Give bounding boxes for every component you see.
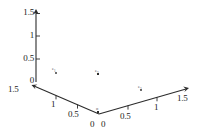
right-tick-label-1p0: 1 — [154, 103, 158, 112]
left-tick-label-0: 0 — [90, 120, 94, 129]
data-point-label-3: e3 — [138, 84, 142, 92]
left-tick-label-1p5: 1.5 — [8, 85, 19, 94]
left-tick-label-0p5: 0.5 — [68, 110, 79, 119]
origin-marker — [97, 111, 99, 113]
data-point-label-2-sub: 2 — [97, 71, 99, 75]
axes-lines-layer — [0, 0, 201, 138]
origin-label: o — [96, 106, 98, 111]
data-point-label-1: e1 — [52, 66, 56, 74]
data-point-label-3-sub: 3 — [140, 87, 142, 91]
vertical-tick-label-1p5: 1.5 — [10, 8, 34, 17]
right-tick-label-1p5: 1.5 — [177, 94, 188, 103]
right-tick-label-0: 0 — [101, 120, 105, 129]
left-depth-axis-line — [34, 86, 99, 114]
left-tick-label-1p0: 1 — [51, 100, 55, 109]
right-horizontal-axis-line — [99, 89, 186, 114]
right-tick-label-0p5: 0.5 — [120, 112, 131, 121]
vertical-tick-label-1p0: 1 — [10, 31, 34, 40]
data-point-label-1-sub: 1 — [54, 69, 56, 73]
origin-label-base: o — [96, 106, 98, 111]
axes-3d-plot: 1.5 1 0.5 0 1.5 1 0.5 0 0 0.5 1 1.5 e1 e… — [0, 0, 201, 138]
vertical-tick-label-0p5: 0.5 — [6, 54, 34, 63]
data-point-label-2: e2 — [95, 68, 99, 76]
